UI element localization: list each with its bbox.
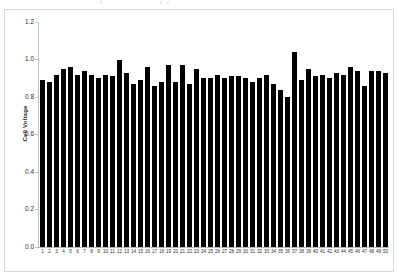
bar	[117, 60, 122, 247]
bar-slot	[137, 22, 144, 247]
y-tick-label-0_0: 0.0	[16, 244, 34, 250]
bar-slot	[354, 22, 361, 247]
bar-slot	[277, 22, 284, 247]
x-tick-label: 49	[375, 250, 382, 262]
bar-slot	[305, 22, 312, 247]
x-tick-label: 50	[382, 250, 389, 262]
x-tick-label: 16	[144, 250, 151, 262]
bar	[383, 73, 388, 247]
bar-slot	[116, 22, 123, 247]
x-tick-label: 39	[305, 250, 312, 262]
bar	[152, 86, 157, 247]
x-tick-label: 43	[333, 250, 340, 262]
bar-slot	[270, 22, 277, 247]
bar	[306, 69, 311, 247]
bar	[362, 86, 367, 247]
bar-slot	[39, 22, 46, 247]
bar	[96, 78, 101, 247]
bar	[243, 78, 248, 247]
x-tick-label: 35	[277, 250, 284, 262]
bar-slot	[368, 22, 375, 247]
x-tick-label: 14	[130, 250, 137, 262]
x-tick-label: 38	[298, 250, 305, 262]
x-tick-label: 23	[193, 250, 200, 262]
cell-voltage-bar-chart: Cell Voltage 1.2 1.0 0.8 0.6 0.4 0.2 0.0…	[0, 0, 398, 277]
bar-slot	[60, 22, 67, 247]
y-tick-label-0_8: 0.8	[16, 94, 34, 100]
bar	[166, 65, 171, 247]
bar-slot	[172, 22, 179, 247]
bar	[131, 84, 136, 247]
bar	[355, 71, 360, 247]
y-tick-label-1_0: 1.0	[16, 56, 34, 62]
bar-slot	[291, 22, 298, 247]
bar-slot	[312, 22, 319, 247]
x-tick-label: 46	[354, 250, 361, 262]
bar-slot	[151, 22, 158, 247]
bar-slot	[53, 22, 60, 247]
bar-slot	[130, 22, 137, 247]
bar-slot	[228, 22, 235, 247]
bar-slot	[214, 22, 221, 247]
x-tick-label: 24	[200, 250, 207, 262]
bar-slot	[347, 22, 354, 247]
bar	[250, 82, 255, 247]
bar	[215, 75, 220, 248]
bar-slot	[256, 22, 263, 247]
y-tick-label-0_4: 0.4	[16, 169, 34, 175]
bar	[47, 82, 52, 247]
x-tick-label: 3	[53, 250, 60, 262]
bar-slot	[74, 22, 81, 247]
y-axis-tick-labels: 1.2 1.0 0.8 0.6 0.4 0.2 0.0	[12, 0, 34, 277]
bar-slot	[263, 22, 270, 247]
x-tick-label: 8	[88, 250, 95, 262]
x-tick-label: 6	[74, 250, 81, 262]
bar	[376, 71, 381, 247]
x-tick-label: 44	[340, 250, 347, 262]
bar-slot	[109, 22, 116, 247]
bar-slot	[179, 22, 186, 247]
bar-slot	[165, 22, 172, 247]
bar	[145, 67, 150, 247]
x-tick-label: 2	[46, 250, 53, 262]
bar	[159, 82, 164, 247]
x-axis-baseline	[38, 247, 389, 248]
bars-container	[39, 22, 389, 247]
bar-slot	[46, 22, 53, 247]
x-tick-label: 29	[235, 250, 242, 262]
x-tick-label: 47	[361, 250, 368, 262]
bar-slot	[158, 22, 165, 247]
bar-slot	[88, 22, 95, 247]
bar	[327, 78, 332, 247]
x-tick-label: 21	[179, 250, 186, 262]
bar	[229, 76, 234, 247]
x-tick-label: 48	[368, 250, 375, 262]
bar-slot	[95, 22, 102, 247]
x-axis-tick-labels: 1234567891011121314151617181920212223242…	[39, 250, 389, 262]
x-tick-label: 4	[60, 250, 67, 262]
x-tick-label: 42	[326, 250, 333, 262]
x-tick-label: 22	[186, 250, 193, 262]
bar	[348, 67, 353, 247]
top-edge-artifact	[0, 0, 398, 8]
bar-slot	[144, 22, 151, 247]
bar-slot	[249, 22, 256, 247]
bar	[320, 75, 325, 248]
bar	[334, 73, 339, 247]
x-tick-label: 33	[263, 250, 270, 262]
x-tick-label: 19	[165, 250, 172, 262]
bar	[201, 78, 206, 247]
x-tick-label: 28	[228, 250, 235, 262]
bar	[40, 80, 45, 247]
bar-slot	[298, 22, 305, 247]
x-tick-label: 7	[81, 250, 88, 262]
bar	[278, 90, 283, 248]
bar	[187, 84, 192, 247]
bar	[369, 71, 374, 247]
bar	[236, 76, 241, 247]
bar	[341, 75, 346, 248]
x-tick-label: 25	[207, 250, 214, 262]
bar	[138, 80, 143, 247]
x-tick-label: 36	[284, 250, 291, 262]
bar-slot	[67, 22, 74, 247]
